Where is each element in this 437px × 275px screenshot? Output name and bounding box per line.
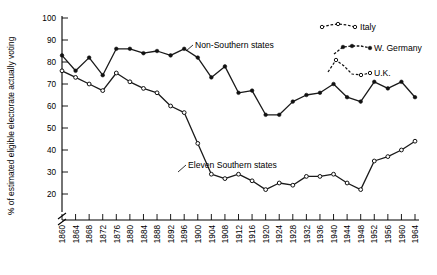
x-tick-label-1928: 1928 [289, 225, 298, 244]
x-tick-label-1904: 1904 [208, 225, 217, 244]
data-point [264, 188, 268, 192]
data-point [182, 47, 186, 51]
data-point [291, 100, 295, 104]
x-tick-label-1892: 1892 [167, 225, 176, 244]
data-point [114, 71, 118, 75]
data-point [400, 148, 404, 152]
x-tick-label-1924: 1924 [275, 225, 284, 244]
data-point [155, 49, 159, 53]
data-point [264, 113, 268, 117]
data-point [101, 73, 105, 77]
y-axis-label-text: % of estimated eligible electorate actua… [6, 36, 16, 215]
legend-marker-italy-1 [320, 25, 323, 28]
data-point [210, 76, 214, 80]
x-tick-label-1952: 1952 [370, 225, 379, 244]
data-point [155, 91, 159, 95]
data-point [142, 51, 146, 55]
legend-label-italy: Italy [360, 22, 376, 32]
data-point [400, 80, 404, 84]
data-point [413, 95, 417, 99]
leader-line-non-southern [186, 45, 193, 51]
legend-marker-germany-1 [341, 45, 345, 49]
x-axis: 1860186418681872187618801884188818921896… [58, 214, 420, 243]
data-point [74, 76, 78, 80]
x-tick-label-1948: 1948 [357, 225, 366, 244]
data-point [196, 142, 200, 146]
data-point [304, 175, 308, 179]
x-tick-label-1900: 1900 [194, 225, 203, 244]
annotation-non-southern: Non-Southern states [186, 40, 274, 51]
data-point [413, 139, 417, 143]
data-point [305, 93, 309, 97]
data-point [196, 56, 200, 60]
data-point [74, 69, 78, 73]
data-point [372, 80, 376, 84]
data-point [386, 87, 390, 91]
legend-line-uk [328, 60, 370, 75]
legend-marker-germany-2 [350, 44, 354, 48]
data-point [277, 113, 281, 117]
data-point [345, 95, 349, 99]
data-point [372, 159, 376, 163]
annotation-label-non-southern: Non-Southern states [195, 40, 274, 50]
data-point [223, 177, 227, 181]
annotation-label-eleven-southern: Eleven Southern states [188, 160, 277, 170]
data-point [60, 54, 64, 58]
data-point [318, 91, 322, 95]
x-tick-label-1912: 1912 [235, 225, 244, 244]
y-tick-label-30: 30 [47, 168, 57, 177]
y-tick-label-70: 70 [47, 80, 57, 89]
series-eleven-southern-states [60, 69, 417, 192]
x-tick-label-1860: 1860 [58, 225, 67, 244]
data-point [142, 87, 146, 91]
legend-label-uk: U.K. [374, 68, 391, 78]
data-point [277, 181, 281, 185]
x-tick-label-1896: 1896 [180, 225, 189, 244]
legend-item-italy: Italy [320, 22, 376, 32]
data-point [359, 188, 363, 192]
legend-marker-germany-3 [368, 46, 372, 50]
x-tick-label-1936: 1936 [316, 225, 325, 244]
y-axis-title: % of estimated eligible electorate actua… [6, 36, 16, 215]
data-point [291, 183, 295, 187]
data-point [101, 89, 105, 93]
data-point [87, 56, 91, 60]
data-point [169, 54, 173, 58]
x-tick-label-1940: 1940 [330, 225, 339, 244]
y-tick-label-60: 60 [47, 102, 57, 111]
y-tick-label-90: 90 [47, 36, 57, 45]
y-tick-label-20: 20 [47, 190, 57, 199]
x-tick-label-1884: 1884 [140, 225, 149, 244]
x-tick-label-1864: 1864 [72, 225, 81, 244]
data-point [182, 111, 186, 115]
x-tick-label-1868: 1868 [85, 225, 94, 244]
x-tick-label-1880: 1880 [126, 225, 135, 244]
y-tick-label-40: 40 [47, 146, 57, 155]
data-point [237, 172, 241, 176]
series-line [62, 49, 415, 115]
annotation-eleven-southern: Eleven Southern states [178, 160, 277, 172]
data-point [332, 172, 336, 176]
y-tick-label-80: 80 [47, 58, 57, 67]
legend-marker-uk-2 [359, 73, 362, 76]
x-tick-label-1956: 1956 [384, 225, 393, 244]
x-tick-label-1876: 1876 [113, 225, 122, 244]
legend-marker-italy-3 [353, 25, 356, 28]
legend-label-w-germany: W. Germany [374, 43, 422, 53]
data-point [209, 172, 213, 176]
series-non-southern-states [60, 47, 417, 117]
legend: Italy W. Germany U.K. [320, 22, 422, 78]
data-point [128, 47, 132, 51]
data-point [332, 82, 336, 86]
legend-item-uk: U.K. [328, 58, 391, 78]
data-point [250, 89, 254, 93]
x-tick-label-1908: 1908 [221, 225, 230, 244]
data-point [250, 179, 254, 183]
legend-marker-italy-2 [336, 22, 339, 25]
x-tick-label-1960: 1960 [398, 225, 407, 244]
x-tick-label-1964: 1964 [411, 225, 420, 244]
data-point [223, 65, 227, 69]
voter-turnout-chart: % of estimated eligible electorate actua… [0, 0, 437, 275]
data-point [169, 104, 173, 108]
x-tick-label-1916: 1916 [248, 225, 257, 244]
